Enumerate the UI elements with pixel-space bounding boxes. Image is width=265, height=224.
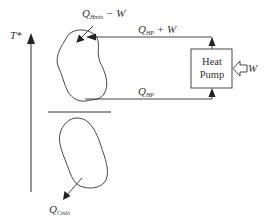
axis-arrow-icon bbox=[27, 33, 35, 44]
q-hmin-minus-w-label: QHmin − W bbox=[82, 8, 125, 20]
up-arrow-icon bbox=[209, 88, 216, 97]
axis-label: T* bbox=[10, 30, 22, 41]
work-label: W bbox=[248, 63, 257, 74]
temperature-axis bbox=[27, 33, 35, 192]
q-hp-plus-w-label: QHP + W bbox=[138, 24, 176, 36]
diagram-canvas bbox=[0, 0, 265, 224]
q-hmin-arrow bbox=[77, 26, 93, 42]
q-cmin-label: QCmin bbox=[49, 204, 70, 216]
left-arrow-icon bbox=[86, 34, 96, 41]
up-arrow-icon bbox=[209, 37, 216, 46]
lower-region-blob bbox=[59, 118, 107, 188]
heat-pump-label: Heat Pump bbox=[191, 55, 233, 81]
work-input-arrow-icon bbox=[233, 61, 247, 76]
q-hp-label: QHP bbox=[138, 86, 154, 98]
upper-region-blob bbox=[57, 30, 107, 101]
